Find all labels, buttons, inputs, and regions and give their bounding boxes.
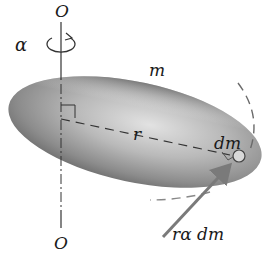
angular-acceleration-label: α — [15, 36, 27, 54]
axis-label-top: O — [55, 3, 69, 20]
tangential-force-label: rα dm — [172, 226, 224, 243]
rotating-body-diagram: O O α m r dm rα dm — [0, 0, 269, 259]
axis-label-bottom: O — [54, 235, 68, 252]
mass-label: m — [149, 62, 165, 79]
mass-element-label: dm — [214, 135, 241, 152]
radius-label: r — [133, 126, 141, 143]
